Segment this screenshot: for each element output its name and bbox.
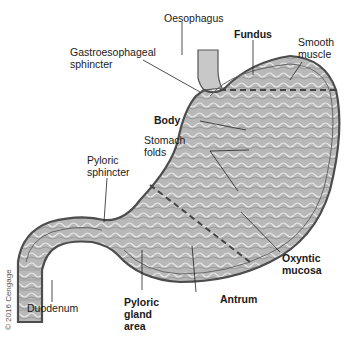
label-fundus: Fundus bbox=[234, 28, 272, 40]
label-pyloric-gland-area: Pyloric gland area bbox=[124, 296, 159, 332]
label-stomach-folds: Stomach folds bbox=[144, 134, 185, 158]
label-oesophagus: Oesophagus bbox=[164, 12, 224, 24]
oesophagus-tube bbox=[198, 50, 222, 90]
stomach-illustration bbox=[0, 0, 349, 342]
label-oxyntic-mucosa: Oxyntic mucosa bbox=[282, 252, 322, 276]
label-duodenum: Duodenum bbox=[27, 302, 78, 314]
copyright-notice: © 2016 Cengage bbox=[4, 269, 13, 330]
label-smooth-muscle: Smooth muscle bbox=[298, 36, 334, 60]
stomach-shape bbox=[18, 56, 339, 322]
label-antrum: Antrum bbox=[220, 293, 257, 305]
label-pyloric-sphincter: Pyloric sphincter bbox=[87, 154, 130, 178]
label-gastroesophageal-sphincter: Gastroesophageal sphincter bbox=[70, 46, 156, 70]
label-body: Body bbox=[154, 114, 180, 126]
